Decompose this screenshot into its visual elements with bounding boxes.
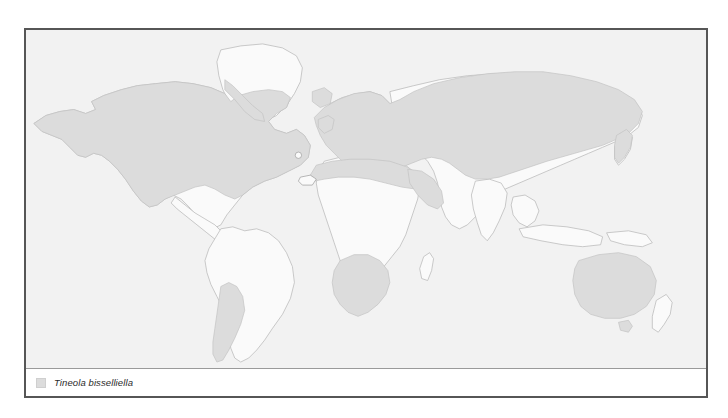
world-map-panel xyxy=(26,30,706,368)
world-map-svg xyxy=(26,30,706,368)
legend-species-label: Tineola bisselliella xyxy=(54,377,133,388)
distribution-australia xyxy=(573,253,657,319)
azores-marker xyxy=(295,152,301,158)
figure-frame: Tineola bisselliella xyxy=(24,28,708,398)
map-legend: Tineola bisselliella xyxy=(26,368,706,396)
distribution-swatch-icon xyxy=(36,378,46,388)
